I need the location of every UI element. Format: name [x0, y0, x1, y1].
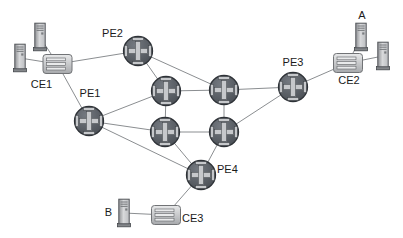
p-core-bottom-left-router-icon [151, 118, 180, 147]
ce1-label: CE1 [31, 78, 52, 90]
p-core-top-left-router-icon [152, 77, 181, 106]
pe2-router-icon [124, 37, 153, 66]
host-b-label: B [105, 206, 112, 218]
pe3-label: PE3 [283, 56, 304, 68]
pe4-router-icon [187, 161, 216, 190]
p-core-bottom-right-router-icon [210, 118, 239, 147]
host-b-tower-icon [118, 199, 131, 227]
p-core-top-right-router-icon [210, 76, 239, 105]
network-topology-diagram: PE2 PE1 PE3 PE4 CE1 CE2 CE3 A B [0, 0, 403, 238]
tower-ce1-top-icon [34, 23, 47, 51]
topology-svg: PE2 PE1 PE3 PE4 CE1 CE2 CE3 A B [0, 0, 403, 238]
ce3-label: CE3 [182, 212, 203, 224]
pe2-label: PE2 [102, 27, 123, 39]
ce2-label: CE2 [338, 74, 359, 86]
pe3-router-icon [279, 73, 308, 102]
host-a-tower-icon [355, 23, 368, 51]
tower-ce1-left-icon [14, 44, 27, 72]
ce3-switch-icon [152, 206, 181, 225]
tower-ce2-right-icon [377, 42, 390, 70]
pe1-label: PE1 [80, 87, 101, 99]
host-a-label: A [358, 9, 366, 21]
nodes-layer [14, 23, 390, 227]
pe1-router-icon [75, 107, 104, 136]
pe4-label: PE4 [217, 163, 238, 175]
ce1-switch-icon [43, 55, 72, 74]
ce2-switch-icon [334, 54, 363, 73]
